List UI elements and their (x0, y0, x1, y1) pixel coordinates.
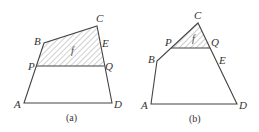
point-label-q: Q (211, 36, 219, 48)
caption-b: (b) (189, 113, 201, 125)
point-label-a: A (140, 99, 148, 111)
point-label-b: B (148, 53, 155, 65)
point-label-e: E (218, 54, 226, 66)
point-label-d: D (113, 98, 122, 110)
diagram-canvas: B C E P Q A D f (a) C P Q B E A D f (b) (0, 0, 259, 132)
point-label-p: P (164, 36, 172, 48)
point-label-p: P (27, 60, 35, 72)
figure: B C E P Q A D f (a) C P Q B E A D f (b) (0, 0, 259, 132)
point-label-d: D (238, 99, 247, 111)
point-label-c: C (96, 12, 104, 24)
point-label-a: A (13, 98, 21, 110)
panel-b: C P Q B E A D f (b) (140, 9, 247, 125)
shaded-region-a (36, 26, 104, 66)
point-label-e: E (101, 37, 109, 49)
point-label-c: C (194, 9, 202, 21)
point-label-q: Q (105, 60, 113, 72)
panel-a: B C E P Q A D f (a) (13, 12, 122, 124)
caption-a: (a) (66, 112, 77, 124)
point-label-b: B (34, 35, 41, 47)
